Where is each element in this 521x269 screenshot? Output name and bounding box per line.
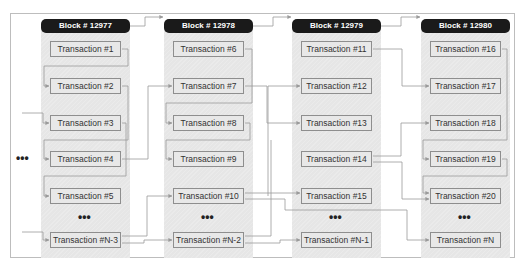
transaction-box: Transaction #11 [301, 41, 372, 57]
transaction-box: Transaction #N-3 [50, 232, 121, 248]
transaction-box: Transaction #N-1 [301, 232, 372, 248]
transaction-box: Transaction #N [430, 232, 501, 248]
transaction-box: Transaction #17 [430, 78, 501, 94]
transaction-box: Transaction #20 [430, 188, 501, 204]
transaction-box: Transaction #3 [50, 115, 121, 131]
transaction-box: Transaction #18 [430, 115, 501, 131]
transaction-box: Transaction #19 [430, 151, 501, 167]
transaction-box: Transaction #7 [173, 78, 244, 94]
transaction-box: Transaction #14 [301, 151, 372, 167]
transaction-box: Transaction #8 [173, 115, 244, 131]
block-header-12977: Block # 12977 [41, 19, 130, 33]
transaction-box: Transaction #4 [50, 151, 121, 167]
block-header-12979: Block # 12979 [292, 19, 381, 33]
ellipsis: ••• [201, 212, 214, 222]
side-ellipsis: ••• [16, 153, 29, 163]
ellipsis: ••• [78, 212, 91, 222]
transaction-box: Transaction #1 [50, 41, 121, 57]
transaction-box: Transaction #10 [173, 188, 244, 204]
transaction-box: Transaction #2 [50, 78, 121, 94]
transaction-box: Transaction #16 [430, 41, 501, 57]
transaction-box: Transaction #9 [173, 151, 244, 167]
transaction-box: Transaction #N-2 [173, 232, 244, 248]
transaction-box: Transaction #5 [50, 188, 121, 204]
transaction-box: Transaction #13 [301, 115, 372, 131]
transaction-box: Transaction #6 [173, 41, 244, 57]
transaction-box: Transaction #12 [301, 78, 372, 94]
ellipsis: ••• [329, 212, 342, 222]
block-header-12978: Block # 12978 [164, 19, 253, 33]
transaction-box: Transaction #15 [301, 188, 372, 204]
ellipsis: ••• [458, 212, 471, 222]
block-header-12980: Block # 12980 [421, 19, 510, 33]
